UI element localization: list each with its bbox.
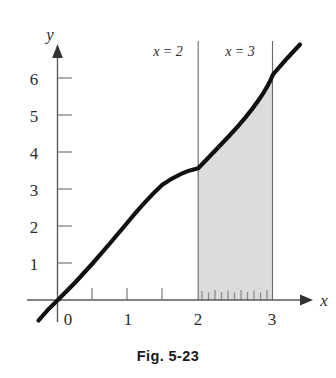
y-tick-label-2: 2 [30,218,39,237]
x-tick-label-2: 2 [194,310,203,329]
x-axis-label: x [319,291,328,310]
x-axis-arrow [300,295,313,306]
y-tick-label-1: 1 [30,255,39,274]
y-tick-label-3: 3 [30,181,39,200]
y-tick-label-5: 5 [30,107,39,126]
vline-x3-label: x = 3 [224,44,255,59]
y-tick-label-6: 6 [30,70,39,89]
plot-area: 6 5 4 3 2 1 0 1 2 3 y x x = 2 x = 3 [0,0,336,378]
x-axis-ticks [92,288,162,300]
vline-x2-label: x = 2 [152,44,183,59]
shaded-region [198,75,272,301]
x-tick-label-0: 0 [64,310,73,329]
x-tick-label-3: 3 [268,310,277,329]
y-axis-label: y [44,25,54,44]
figure-container: 6 5 4 3 2 1 0 1 2 3 y x x = 2 x = 3 Fig.… [0,0,336,378]
x-tick-label-1: 1 [124,310,133,329]
y-tick-label-4: 4 [30,144,39,163]
y-axis-ticks [58,78,73,263]
figure-caption: Fig. 5-23 [0,348,336,364]
y-axis-arrow [52,44,63,58]
